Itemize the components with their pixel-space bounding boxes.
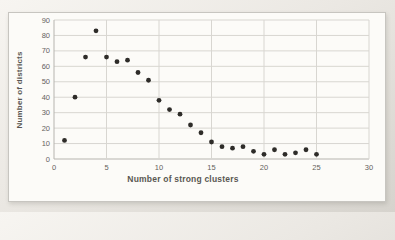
data-point [241, 144, 246, 149]
data-point [251, 149, 256, 154]
x-tick-label: 10 [155, 163, 163, 172]
scatter-chart: 0102030405060708090051015202530 [9, 13, 385, 201]
y-axis-title: Number of districts [15, 51, 24, 128]
y-tick-label: 80 [42, 31, 50, 40]
x-tick-label: 20 [260, 163, 268, 172]
y-tick-label: 70 [42, 46, 50, 55]
data-point [136, 70, 141, 75]
y-tick-label: 20 [42, 124, 50, 133]
data-point [220, 144, 225, 149]
y-tick-label: 60 [42, 62, 50, 71]
y-tick-label: 90 [42, 16, 50, 25]
y-tick-label: 30 [42, 108, 50, 117]
x-tick-label: 0 [52, 163, 56, 172]
data-point [262, 152, 267, 157]
data-point [209, 140, 214, 145]
y-tick-label: 10 [42, 139, 50, 148]
data-point [272, 147, 277, 152]
data-point [104, 55, 109, 60]
y-tick-label: 40 [42, 93, 50, 102]
data-point [73, 95, 78, 100]
data-point [115, 59, 120, 64]
data-point [83, 55, 88, 60]
data-point [199, 130, 204, 135]
data-point [125, 58, 130, 63]
y-tick-label: 50 [42, 77, 50, 86]
data-point [157, 98, 162, 103]
x-axis-title: Number of strong clusters [17, 174, 349, 184]
data-point [304, 147, 309, 152]
data-point [62, 138, 67, 143]
x-tick-label: 5 [104, 163, 108, 172]
data-point [283, 152, 288, 157]
data-point [94, 28, 99, 33]
data-point [230, 146, 235, 151]
data-point [188, 123, 193, 128]
y-tick-label: 0 [46, 155, 50, 164]
x-tick-label: 15 [207, 163, 215, 172]
chart-frame: 0102030405060708090051015202530 Number o… [8, 12, 386, 202]
x-tick-label: 30 [365, 163, 373, 172]
data-point [146, 78, 151, 83]
data-point [178, 112, 183, 117]
data-point [167, 107, 172, 112]
data-point [293, 150, 298, 155]
x-tick-label: 25 [312, 163, 320, 172]
data-point [314, 152, 319, 157]
